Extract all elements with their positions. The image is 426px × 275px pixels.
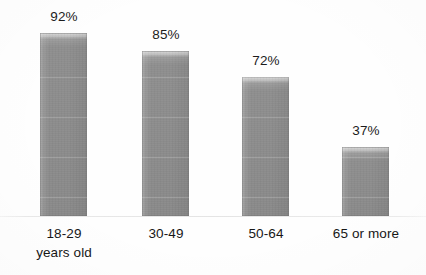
category-label-line: years old <box>14 243 114 262</box>
x-axis-category-labels: 18-29 years old 30-49 50-64 65 or more <box>0 224 426 275</box>
category-label: 65 or more <box>316 224 416 243</box>
bar-wrap <box>14 0 114 217</box>
category-label-line: 30-49 <box>116 224 216 243</box>
bar-gridlines <box>142 51 189 216</box>
category-label: 30-49 <box>116 224 216 243</box>
plot-area: 92% 85% <box>0 0 426 217</box>
bar[interactable] <box>40 33 87 216</box>
bar-group: 72% <box>216 0 316 217</box>
bar-group: 85% <box>116 0 216 217</box>
bar-texture <box>342 147 389 216</box>
bar[interactable] <box>342 147 389 216</box>
bar[interactable] <box>242 77 289 216</box>
category-label-line: 50-64 <box>216 224 316 243</box>
bar-group: 37% <box>316 0 416 217</box>
bar-wrap <box>216 0 316 217</box>
bar-gridlines <box>342 147 389 216</box>
bar-wrap <box>116 0 216 217</box>
bar-texture <box>242 77 289 216</box>
bar-gridlines <box>242 77 289 216</box>
category-label: 18-29 years old <box>14 224 114 262</box>
bar-gridlines <box>40 33 87 216</box>
category-label-line: 18-29 <box>14 224 114 243</box>
x-axis-line <box>0 216 426 217</box>
bar-wrap <box>316 0 416 217</box>
bar-chart: 92% 85% <box>0 0 426 275</box>
bar-texture <box>40 33 87 216</box>
category-label: 50-64 <box>216 224 316 243</box>
category-label-line: 65 or more <box>316 224 416 243</box>
bar-group: 92% <box>14 0 114 217</box>
bar-texture <box>142 51 189 216</box>
bar[interactable] <box>142 51 189 216</box>
